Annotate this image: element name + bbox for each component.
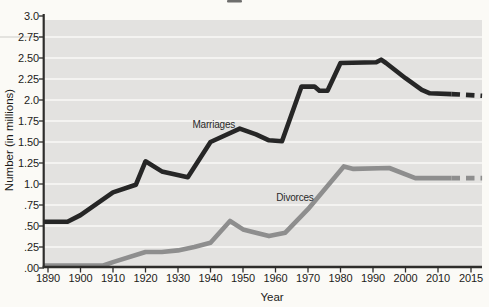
y-tick-label: 1.25: [18, 157, 39, 169]
x-tick-label: 1970: [296, 272, 320, 284]
y-tick-label: 2.0: [24, 94, 39, 106]
y-tick-label: 3.0: [24, 10, 39, 22]
y-tick-label: .50: [24, 220, 39, 232]
y-tick-label: 1.50: [18, 136, 39, 148]
x-tick-label: 1910: [101, 272, 125, 284]
marriages-label: Marriages: [192, 119, 235, 130]
x-axis-title: Year: [260, 291, 283, 303]
divorces-label: Divorces: [276, 192, 313, 203]
y-tick-label: .25: [24, 241, 39, 253]
marriages-divorces-chart: 3.02.752.502.252.01.751.501.251.0.75.50.…: [0, 0, 489, 307]
x-tick-label: 1990: [361, 272, 385, 284]
x-tick-label: 2000: [393, 272, 417, 284]
x-tick-label: 1960: [263, 272, 287, 284]
y-tick-label: 1.0: [24, 178, 39, 190]
x-tick-label: 1900: [68, 272, 92, 284]
chart-figure: 3.02.752.502.252.01.751.501.251.0.75.50.…: [0, 0, 489, 307]
x-tick-label: 1930: [166, 272, 190, 284]
x-tick-label: 1950: [231, 272, 255, 284]
x-tick-label: 1980: [328, 272, 352, 284]
plot-area: [44, 20, 482, 266]
cropped-text-fragment: [227, 0, 242, 3]
y-tick-label: 2.75: [18, 31, 39, 43]
x-tick-label: 2010: [426, 272, 450, 284]
y-tick-label: .75: [24, 199, 39, 211]
y-tick-label: 2.25: [18, 73, 39, 85]
x-tick-label: 1920: [133, 272, 157, 284]
y-tick-label: 2.50: [18, 52, 39, 64]
y-axis-title: Number (in millions): [3, 89, 15, 191]
x-tick-label: 2015: [459, 272, 483, 284]
x-tick-label: 1890: [36, 272, 60, 284]
y-tick-label: 1.75: [18, 115, 39, 127]
x-tick-label: 1940: [198, 272, 222, 284]
